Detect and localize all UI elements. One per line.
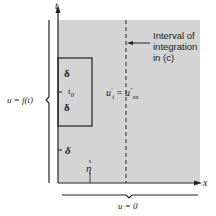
t-axis-label: t: [55, 1, 58, 11]
t0-label: t0: [68, 87, 74, 99]
eq-equals: =: [117, 87, 123, 98]
box-delta-top: δ: [64, 68, 70, 79]
left-brace: [46, 20, 49, 183]
box-delta-bottom: δ: [64, 102, 70, 113]
boundary-left-label: u = f(t): [7, 96, 33, 105]
annotation-line-2: integration: [153, 41, 197, 52]
eq-sub-right: xx: [132, 93, 138, 101]
annotation-line-1: Interval of: [153, 30, 197, 41]
bottom-brace: [62, 195, 198, 198]
x-axis-label: x: [203, 178, 207, 188]
eta-label: η: [86, 163, 91, 174]
eq-sub-left: t: [112, 93, 114, 101]
heat-equation: u′t = u″xx: [106, 87, 139, 101]
lower-delta-label: δ: [65, 145, 71, 156]
boundary-bottom-label: u = 0: [118, 202, 138, 211]
t0-label-sub: 0: [71, 91, 75, 99]
integration-annotation: Interval of integration in (c): [153, 30, 197, 63]
annotation-line-3: in (c): [153, 52, 197, 63]
